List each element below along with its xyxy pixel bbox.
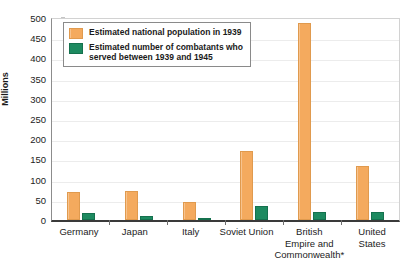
y-tick-label: 500 (14, 13, 46, 24)
x-axis-category-labels: GermanyJapanItalySoviet UnionBritishEmpi… (51, 226, 400, 261)
bar-combatants (371, 212, 384, 220)
bar-combatants (140, 216, 153, 220)
y-tick-label: 300 (14, 93, 46, 104)
bar-population (356, 166, 369, 220)
x-axis-label: Soviet Union (219, 226, 275, 261)
bar-pair (67, 192, 95, 220)
y-tick-label: 250 (14, 114, 46, 125)
bar-population (125, 191, 138, 220)
bar-population (183, 202, 196, 220)
bar-combatants (313, 212, 326, 220)
x-axis-label: Italy (163, 226, 219, 261)
bar-combatants (82, 213, 95, 220)
bar-population (298, 23, 311, 220)
legend-swatch-combatants-icon (69, 43, 83, 54)
bar-pair (240, 151, 268, 220)
x-tick-mark (167, 220, 168, 225)
y-tick-label: 450 (14, 33, 46, 44)
bar-group (341, 18, 399, 220)
bar-population (67, 192, 80, 220)
chart-legend: Estimated national population in 1939 Es… (63, 22, 251, 67)
y-tick-label: 100 (14, 174, 46, 185)
x-tick-mark (341, 220, 342, 225)
x-axis-label: United States (344, 226, 400, 261)
bar-pair (183, 202, 211, 220)
y-tick-label: 50 (14, 194, 46, 205)
bar-combatants (198, 218, 211, 220)
x-tick-mark (109, 220, 110, 225)
legend-item-population: Estimated national population in 1939 (69, 27, 243, 39)
x-tick-mark (225, 220, 226, 225)
legend-label-combatants: Estimated number of combatants who serve… (89, 42, 243, 62)
legend-label-population: Estimated national population in 1939 (89, 27, 242, 37)
bar-chart: Millions 050100150200250300350400450500 … (0, 0, 408, 271)
bar-pair (356, 166, 384, 220)
bar-combatants (255, 206, 268, 220)
x-axis-label: Japan (107, 226, 163, 261)
legend-item-combatants: Estimated number of combatants who serve… (69, 42, 243, 62)
x-tick-mark (283, 220, 284, 225)
y-tick-label: 200 (14, 134, 46, 145)
y-axis-tick-labels: 050100150200250300350400450500 (14, 0, 46, 271)
bar-group (283, 18, 341, 220)
bar-pair (125, 191, 153, 220)
legend-swatch-population-icon (69, 28, 83, 39)
y-tick-label: 150 (14, 154, 46, 165)
y-tick-label: 400 (14, 53, 46, 64)
y-tick-label: 0 (14, 215, 46, 226)
x-axis-label: BritishEmpire andCommonwealth* (274, 226, 344, 261)
y-tick-label: 350 (14, 73, 46, 84)
y-axis-title: Millions (0, 54, 10, 124)
bar-pair (298, 23, 326, 220)
x-axis-label: Germany (51, 226, 107, 261)
bar-population (240, 151, 253, 220)
